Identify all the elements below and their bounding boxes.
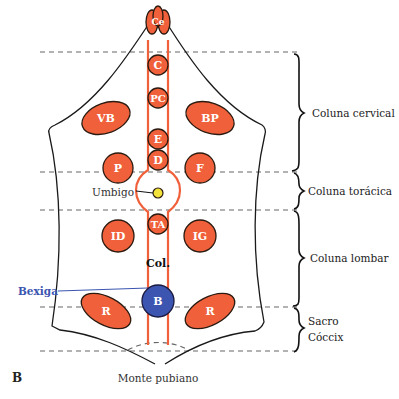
- brace-thoracic: [294, 173, 304, 209]
- umbigo-leader-line: [136, 191, 153, 193]
- region-label-coccix: Cóccix: [308, 331, 343, 343]
- organ-ig: IG: [184, 220, 216, 252]
- organ-c: C: [148, 55, 168, 75]
- organ-r-right-label: R: [205, 305, 215, 318]
- organ-e-label: E: [154, 133, 162, 146]
- organ-f-label: F: [196, 162, 204, 175]
- organ-bp: BP: [181, 95, 238, 140]
- organ-pc-label: PC: [150, 93, 166, 104]
- organ-p: P: [103, 153, 133, 183]
- region-label-thoracic: Coluna torácica: [308, 185, 392, 197]
- organ-id-label: ID: [111, 230, 126, 243]
- organ-r-right: R: [180, 286, 241, 336]
- organ-ta: TA: [148, 214, 168, 234]
- brace-sacral: [294, 308, 304, 352]
- organ-d-label: D: [153, 154, 163, 167]
- organ-d: D: [148, 150, 168, 170]
- figure-label: B: [12, 371, 22, 385]
- organ-ce: Ce: [146, 6, 170, 34]
- bexiga-label: Bexiga: [18, 285, 58, 297]
- brace-lumbar: [293, 211, 304, 306]
- region-label-lumbar: Coluna lombar: [310, 252, 389, 264]
- organ-b-label: B: [153, 295, 162, 308]
- organ-p-label: P: [114, 162, 122, 175]
- organ-b-bladder: B: [142, 285, 174, 317]
- region-label-cervical: Coluna cervical: [312, 107, 395, 119]
- spine-reflex-diagram: Ce C PC E D VB BP P F Umbigo TA: [0, 0, 399, 399]
- organ-vb: VB: [77, 95, 134, 140]
- organ-id: ID: [102, 220, 134, 252]
- umbilicus-dot: [153, 188, 163, 198]
- brace-cervical: [292, 54, 304, 171]
- organ-ta-label: TA: [151, 219, 166, 230]
- organ-r-left-label: R: [101, 305, 111, 318]
- bexiga-leader-line: [58, 288, 148, 291]
- pubic-arc: [128, 343, 188, 351]
- organ-r-left: R: [76, 286, 137, 336]
- organ-ce-label: Ce: [152, 17, 165, 27]
- organ-pc: PC: [148, 88, 168, 108]
- umbigo-label: Umbigo: [92, 186, 134, 198]
- region-label-sacro: Sacro: [308, 315, 339, 327]
- organ-e: E: [148, 129, 168, 149]
- monte-pubiano-label: Monte pubiano: [118, 372, 199, 384]
- organ-ig-label: IG: [193, 230, 208, 243]
- organ-c-label: C: [154, 59, 163, 72]
- colon-label: Col.: [146, 257, 170, 270]
- organ-f: F: [185, 153, 215, 183]
- organ-vb-label: VB: [96, 112, 115, 125]
- organ-bp-label: BP: [201, 112, 219, 125]
